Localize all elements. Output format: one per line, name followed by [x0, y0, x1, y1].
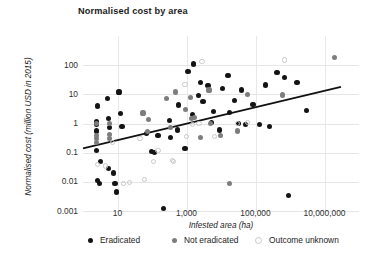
x-tick-10000000: 10,000,000 [285, 208, 365, 218]
legend-label-not_eradicated: Not eradicated [184, 235, 238, 245]
legend-label-outcome_unknown: Outcome unknown [269, 235, 339, 245]
data-point-eradicated [220, 86, 225, 91]
y-tick-100: 100 [64, 60, 78, 70]
data-point-not_eradicated [188, 95, 193, 100]
data-point-eradicated [119, 124, 124, 129]
data-point-eradicated [118, 111, 123, 116]
chart-figure: Normalised cost by area Normalised cost … [0, 0, 370, 259]
data-point-eradicated [274, 70, 279, 75]
data-point-eradicated [217, 127, 222, 132]
data-point-not_eradicated [140, 110, 145, 115]
data-point-not_eradicated [218, 133, 223, 138]
x-axis-label: Infested area (ha) [83, 221, 359, 230]
data-point-eradicated [294, 80, 299, 85]
y-tick-0.01: 0.01 [62, 176, 78, 186]
data-point-eradicated [304, 108, 309, 113]
data-point-not_eradicated [94, 121, 99, 126]
data-point-outcome_unknown [155, 148, 160, 153]
data-point-outcome_unknown [196, 121, 201, 126]
legend-swatch-outcome_unknown [255, 237, 262, 244]
legend-swatch-eradicated [88, 238, 93, 243]
legend-item-not_eradicated[interactable]: Not eradicated [172, 233, 238, 247]
data-point-outcome_unknown [110, 140, 115, 145]
data-point-eradicated [114, 189, 119, 194]
data-point-eradicated [95, 103, 100, 108]
data-point-not_eradicated [173, 89, 178, 94]
data-point-not_eradicated [235, 128, 240, 133]
x-tick-1000: 1,000 [147, 208, 227, 218]
data-point-not_eradicated [146, 117, 151, 122]
chart-legend: EradicatedNot eradicatedOutcome unknown [83, 233, 359, 249]
data-point-eradicated [116, 89, 121, 94]
data-point-outcome_unknown [182, 82, 187, 87]
data-point-eradicated [168, 135, 173, 140]
data-point-eradicated [211, 109, 216, 114]
data-point-outcome_unknown [151, 159, 156, 164]
y-tick-10: 10 [69, 89, 78, 99]
data-point-eradicated [250, 102, 255, 107]
data-point-outcome_unknown [137, 136, 142, 141]
y-axis-label: Normalised cost (million USD in 2015) [24, 47, 33, 207]
data-point-eradicated [112, 181, 117, 186]
legend-item-outcome_unknown[interactable]: Outcome unknown [255, 233, 339, 247]
y-tick-0.001: 0.001 [57, 206, 78, 216]
data-point-eradicated [182, 146, 187, 151]
data-point-eradicated [111, 170, 116, 175]
data-point-outcome_unknown [121, 181, 126, 186]
data-point-outcome_unknown [282, 57, 287, 62]
data-point-not_eradicated [206, 87, 211, 92]
legend-item-eradicated[interactable]: Eradicated [88, 233, 140, 247]
data-point-eradicated [239, 87, 244, 92]
x-tick-10: 10 [78, 208, 158, 218]
legend-label-eradicated: Eradicated [100, 235, 140, 245]
x-tick-100000: 100,000 [216, 208, 296, 218]
data-point-eradicated [286, 193, 291, 198]
data-point-outcome_unknown [127, 180, 132, 185]
data-point-outcome_unknown [95, 162, 100, 167]
data-point-eradicated [155, 133, 160, 138]
data-point-eradicated [191, 61, 196, 66]
plot-area [83, 36, 359, 211]
data-point-not_eradicated [168, 125, 173, 130]
data-point-eradicated [185, 69, 190, 74]
data-point-outcome_unknown [142, 177, 147, 182]
page-title: Normalised cost by area [78, 6, 188, 16]
legend-swatch-not_eradicated [172, 238, 177, 243]
data-point-eradicated [225, 73, 230, 78]
data-point-not_eradicated [280, 92, 285, 97]
y-tick-0.1: 0.1 [66, 147, 78, 157]
data-point-outcome_unknown [103, 163, 108, 168]
data-point-outcome_unknown [199, 59, 204, 64]
data-point-eradicated [175, 127, 180, 132]
data-point-not_eradicated [94, 140, 99, 145]
y-tick-1: 1 [73, 118, 78, 128]
